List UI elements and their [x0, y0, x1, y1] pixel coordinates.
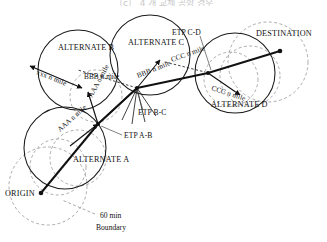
label-destination: DESTINATION — [256, 29, 312, 38]
diagram-canvas: （c） 4 개 교체 공항 경우 — [0, 0, 327, 242]
destination-marker — [278, 49, 283, 54]
sixty-min-boundary-circles — [9, 22, 308, 225]
legend-line-2: Boundary — [96, 223, 126, 232]
label-origin: ORIGIN — [5, 189, 35, 198]
diagram-labels: ORIGIN DESTINATION ALTERNATE A ALTERNATE… — [5, 28, 312, 232]
label-distance-aaa-1: AAA n mile — [87, 63, 111, 99]
arrow-aaa-n-mile-upper — [100, 88, 137, 122]
arrow-ccc-n-mile-upper — [165, 62, 205, 72]
label-alternate-c: ALTERNATE C — [128, 38, 185, 47]
route-track — [41, 51, 280, 193]
label-alternate-d: ALTERNATE D — [211, 100, 268, 109]
leader-etp-ab — [101, 126, 122, 135]
label-etp-c-d: ETP C-D — [172, 28, 201, 37]
leader-60min-boundary — [62, 200, 95, 214]
label-distance-xxx: xxx n mile — [35, 68, 67, 87]
label-etp-b-c: ETP B-C — [138, 108, 166, 117]
route-diagram-svg: ORIGIN DESTINATION ALTERNATE A ALTERNATE… — [0, 0, 327, 242]
label-distance-bbb-2: BBB n mile — [136, 59, 172, 80]
callout-leader-lines — [62, 36, 211, 214]
origin-marker — [39, 191, 44, 196]
label-alternate-a: ALTERNATE A — [73, 155, 129, 164]
label-etp-a-b: ETP A-B — [124, 131, 152, 140]
legend-line-1: 60 min — [100, 211, 122, 220]
label-alternate-b: ALTERNATE B — [58, 43, 115, 52]
label-distance-ccc-1: CCC n mile — [170, 44, 206, 64]
route-segment-etpcd-destination — [208, 51, 280, 73]
